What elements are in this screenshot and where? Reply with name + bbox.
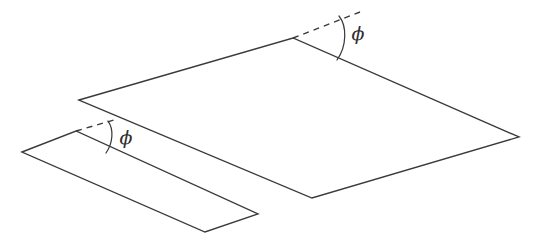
lower-angle-label-phi: ϕ	[120, 126, 133, 148]
upper-angle-label-phi: ϕ	[352, 22, 365, 44]
diagram-canvas: ϕ ϕ	[0, 0, 533, 240]
geometry-figure: ϕ ϕ	[0, 0, 533, 240]
figure-background	[0, 0, 533, 240]
